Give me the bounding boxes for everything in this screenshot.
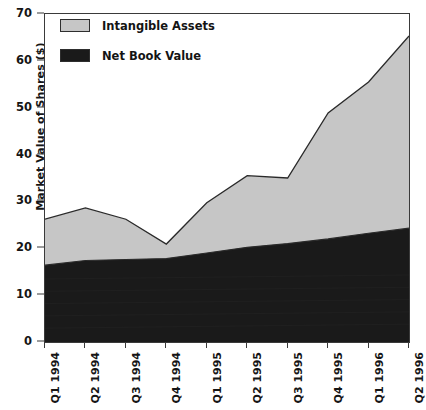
x-tick-label-2: Q3 1994 <box>130 352 143 403</box>
y-tick-mark-30 <box>37 200 44 201</box>
legend-label-net-book-value: Net Book Value <box>102 49 201 63</box>
y-tick-label-70: 70 <box>0 6 32 20</box>
legend-item-intangible-assets: Intangible Assets <box>60 18 215 33</box>
x-tick-label-6: Q3 1995 <box>292 352 305 403</box>
x-tick-label-0: Q1 1994 <box>49 352 62 403</box>
legend-label-intangible-assets: Intangible Assets <box>102 19 215 33</box>
y-tick-mark-70 <box>37 13 44 14</box>
x-tick-label-4: Q1 1995 <box>211 352 224 403</box>
y-tick-mark-50 <box>37 106 44 107</box>
y-tick-label-30: 30 <box>0 193 32 207</box>
x-tick-label-1: Q2 1994 <box>89 352 102 403</box>
x-tick-label-5: Q2 1995 <box>251 352 264 403</box>
y-tick-label-10: 10 <box>0 287 32 301</box>
y-tick-label-50: 50 <box>0 100 32 114</box>
y-tick-mark-20 <box>37 247 44 248</box>
chart-legend: Intangible Assets Net Book Value <box>60 18 215 78</box>
x-tick-label-8: Q1 1996 <box>373 352 386 403</box>
x-tick-label-3: Q4 1994 <box>170 352 183 403</box>
y-tick-label-20: 20 <box>0 240 32 254</box>
y-tick-label-0: 0 <box>0 334 32 348</box>
y-tick-mark-10 <box>37 294 44 295</box>
y-tick-label-40: 40 <box>0 147 32 161</box>
legend-swatch-net-book-value <box>60 49 90 62</box>
legend-item-net-book-value: Net Book Value <box>60 48 215 63</box>
x-tick-label-7: Q4 1995 <box>332 352 345 403</box>
x-tick-label-9: Q2 1996 <box>413 352 426 403</box>
y-tick-mark-0 <box>37 341 44 342</box>
y-tick-label-60: 60 <box>0 53 32 67</box>
y-tick-mark-40 <box>37 153 44 154</box>
legend-swatch-intangible-assets <box>60 19 90 32</box>
y-tick-mark-60 <box>37 59 44 60</box>
